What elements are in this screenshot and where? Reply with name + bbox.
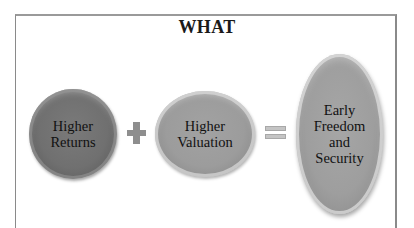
diagram-title: WHAT bbox=[0, 17, 414, 38]
label-line: Valuation bbox=[177, 134, 233, 150]
label-line: Returns bbox=[50, 134, 95, 150]
label-line: Higher bbox=[50, 118, 95, 134]
higher-valuation-label: Higher Valuation bbox=[177, 118, 233, 150]
label-line: and bbox=[314, 134, 366, 150]
early-freedom-security-oval: Early Freedom and Security bbox=[296, 54, 383, 214]
result-label: Early Freedom and Security bbox=[314, 102, 366, 166]
higher-returns-circle: Higher Returns bbox=[29, 89, 117, 179]
label-line: Early bbox=[314, 102, 366, 118]
plus-icon bbox=[127, 122, 146, 144]
label-line: Higher bbox=[177, 118, 233, 134]
equals-icon bbox=[265, 126, 286, 140]
higher-valuation-circle: Higher Valuation bbox=[155, 91, 255, 177]
label-line: Freedom bbox=[314, 118, 366, 134]
higher-returns-label: Higher Returns bbox=[50, 118, 95, 150]
label-line: Security bbox=[314, 150, 366, 166]
